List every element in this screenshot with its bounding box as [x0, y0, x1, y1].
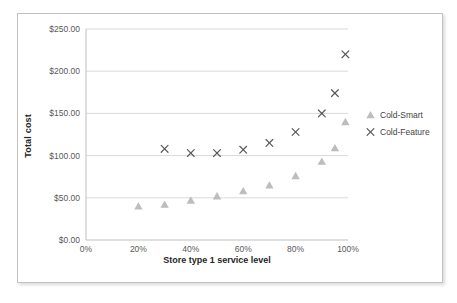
x-tick-label: 100% — [337, 244, 359, 254]
x-tick-label: 80% — [287, 244, 304, 254]
data-point-cold-smart — [265, 181, 273, 188]
x-marker-icon — [365, 127, 376, 137]
legend-item-cold-feature: Cold-Feature — [365, 125, 430, 138]
legend-marker-shape — [366, 111, 374, 118]
x-axis-title: Store type 1 service level — [86, 255, 348, 265]
legend-item-cold-smart: Cold-Smart — [365, 108, 430, 121]
data-point-cold-smart — [331, 144, 339, 151]
y-tick-label: $150.00 — [49, 108, 80, 118]
y-tick-label: $100.00 — [49, 151, 80, 161]
data-point-cold-smart — [318, 158, 326, 165]
plot-area: $0.00$50.00$100.00$150.00$200.00$250.000… — [18, 14, 442, 282]
y-tick-label: $200.00 — [49, 66, 80, 76]
series-cold-smart — [134, 118, 349, 210]
chart-frame: $0.00$50.00$100.00$150.00$200.00$250.000… — [17, 13, 443, 283]
legend-label: Cold-Feature — [380, 127, 430, 137]
data-point-cold-smart — [239, 187, 247, 194]
data-point-cold-smart — [341, 118, 349, 125]
x-tick-label: 60% — [235, 244, 252, 254]
data-point-cold-smart — [291, 172, 299, 179]
legend: Cold-SmartCold-Feature — [365, 108, 430, 138]
y-tick-label: $250.00 — [49, 24, 80, 34]
x-tick-label: 40% — [182, 244, 199, 254]
data-point-cold-smart — [134, 202, 142, 209]
series-cold-feature — [161, 51, 349, 157]
y-tick-label: $50.00 — [54, 193, 80, 203]
data-point-cold-smart — [213, 192, 221, 199]
data-point-cold-smart — [160, 201, 168, 208]
chart-screenshot: $0.00$50.00$100.00$150.00$200.00$250.000… — [0, 0, 457, 303]
x-tick-label: 0% — [80, 244, 93, 254]
y-tick-label: $0.00 — [59, 235, 81, 245]
legend-label: Cold-Smart — [380, 110, 423, 120]
triangle-marker-icon — [365, 110, 376, 120]
x-tick-label: 20% — [130, 244, 147, 254]
